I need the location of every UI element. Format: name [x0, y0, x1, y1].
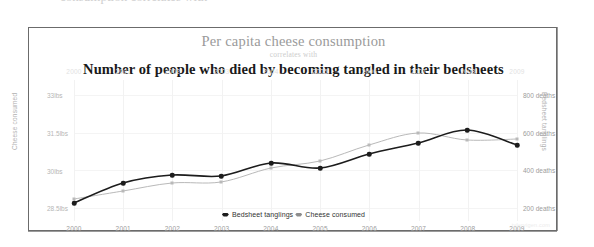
x-tick-2003: 2003 [214, 225, 229, 232]
x-tick-2001: 2001 [116, 225, 131, 232]
data-point[interactable] [515, 143, 520, 148]
data-point[interactable] [368, 144, 371, 147]
x-tick-2002: 2002 [165, 225, 180, 232]
y-tick-left-2: 30lbs [47, 167, 63, 174]
series-lines [74, 80, 517, 221]
x-tick-2003: 2003 [214, 68, 229, 75]
legend-item-cheese-consumed[interactable]: Cheese consumed [295, 211, 365, 218]
line-bedsheet-tanglings [74, 130, 517, 203]
x-tick-2009: 2009 [509, 68, 524, 75]
x-tick-2008: 2008 [460, 225, 475, 232]
data-point[interactable] [219, 174, 224, 179]
x-axis-bottom-ticks: 2000200120022003200420052006200720082009 [74, 225, 517, 237]
data-point[interactable] [72, 201, 77, 206]
data-point[interactable] [269, 161, 274, 166]
data-point[interactable] [466, 139, 469, 142]
x-tick-2004: 2004 [263, 225, 278, 232]
data-point[interactable] [270, 167, 273, 170]
y-tick-left-0: 33lbs [47, 92, 63, 99]
data-point[interactable] [319, 160, 322, 163]
y-tick-left-1: 31.5lbs [47, 129, 68, 136]
chart-legend: Bedsheet tanglings Cheese consumed [29, 211, 558, 218]
x-tick-2006: 2006 [362, 68, 377, 75]
data-point[interactable] [121, 181, 126, 186]
data-point[interactable] [465, 128, 470, 133]
x-tick-2006: 2006 [362, 225, 377, 232]
y-axis-right-title: Bedsheet tanglings [541, 92, 548, 151]
legend-item-bedsheet-tanglings[interactable]: Bedsheet tanglings [222, 211, 293, 218]
x-tick-2002: 2002 [165, 68, 180, 75]
diamond-marker-light-icon [295, 213, 302, 217]
cut-off-text-strip: consumption correlates with [0, 0, 594, 14]
gridline-vertical [517, 80, 518, 221]
x-tick-2000: 2000 [66, 225, 81, 232]
y-tick-right-0: 800 deaths [523, 92, 555, 99]
y-tick-right-1: 600 deaths [523, 129, 555, 136]
x-tick-2007: 2007 [411, 225, 426, 232]
data-point[interactable] [171, 182, 174, 185]
data-point[interactable] [220, 181, 223, 184]
x-tick-2001: 2001 [116, 68, 131, 75]
x-tick-2004: 2004 [263, 68, 278, 75]
x-tick-2007: 2007 [411, 68, 426, 75]
data-point[interactable] [367, 152, 372, 157]
diamond-marker-dark-icon [222, 213, 229, 217]
data-point[interactable] [318, 166, 323, 171]
data-point[interactable] [516, 138, 519, 141]
x-tick-2008: 2008 [460, 68, 475, 75]
cut-off-text: consumption correlates with [60, 0, 207, 5]
data-point[interactable] [416, 141, 421, 146]
y-tick-right-2: 400 deaths [523, 167, 555, 174]
watermark: tylervigen.com [512, 222, 550, 228]
data-point[interactable] [417, 132, 420, 135]
x-tick-2000: 2000 [66, 68, 81, 75]
y-axis-left-title: Cheese consumed [11, 93, 18, 150]
plot-area [74, 80, 517, 221]
chart-title-primary: Per capita cheese consumption [29, 33, 558, 50]
chart-title-connector: correlates with [29, 50, 558, 60]
x-tick-2005: 2005 [312, 225, 327, 232]
legend-label-cheese-consumed: Cheese consumed [305, 211, 365, 218]
x-tick-2005: 2005 [312, 68, 327, 75]
data-point[interactable] [170, 173, 175, 178]
x-axis-top-ticks: 2000200120022003200420052006200720082009 [74, 68, 517, 80]
chart-panel: Per capita cheese consumption correlates… [28, 27, 557, 231]
data-point[interactable] [122, 190, 125, 193]
legend-label-bedsheet-tanglings: Bedsheet tanglings [232, 211, 293, 218]
